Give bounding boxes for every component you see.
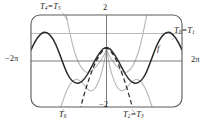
label-t4-equals-t5: T4=T5 — [40, 2, 61, 11]
y-axis-top-tick-value: 2 — [103, 2, 107, 12]
label-t2-equals-t3-right-subscript: 3 — [141, 113, 144, 119]
taylor-polynomial-figure: T4=T5 T0=T1 T6 T2=T3 f 2 −2 −2π 2π — [0, 0, 216, 128]
x-axis-left-tick-label: −2π — [5, 54, 18, 63]
x-axis-right-tick-value: 2π — [191, 54, 200, 64]
x-axis-right-tick-label: 2π — [191, 55, 200, 64]
label-t4-equals-t5-right-subscript: 5 — [58, 5, 61, 11]
label-t6: T6 — [59, 110, 66, 119]
x-axis-left-tick-value: −2π — [5, 53, 18, 63]
y-axis-top-tick-label: 2 — [103, 3, 107, 12]
label-t6-subscript: 6 — [64, 113, 67, 119]
label-t0-equals-t1: T0=T1 — [174, 26, 195, 35]
label-t0-equals-t1-right-subscript: 1 — [192, 29, 195, 35]
y-axis-bottom-tick-label: −2 — [99, 100, 108, 109]
label-function-f: f — [157, 44, 160, 53]
label-t2-equals-t3: T2=T3 — [123, 110, 144, 119]
y-axis-bottom-tick-value: −2 — [99, 99, 108, 109]
axes-group — [31, 15, 182, 107]
